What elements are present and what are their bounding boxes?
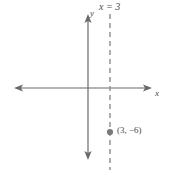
coordinate-plane-figure: x = 3 y x (3, −6) [0,0,170,176]
y-axis-label: y [90,9,94,18]
graph-canvas [0,0,170,176]
line-equation-label: x = 3 [99,2,120,12]
x-axis-label: x [155,89,159,98]
plotted-point-marker [107,129,113,135]
point-coordinate-label: (3, −6) [117,126,142,135]
